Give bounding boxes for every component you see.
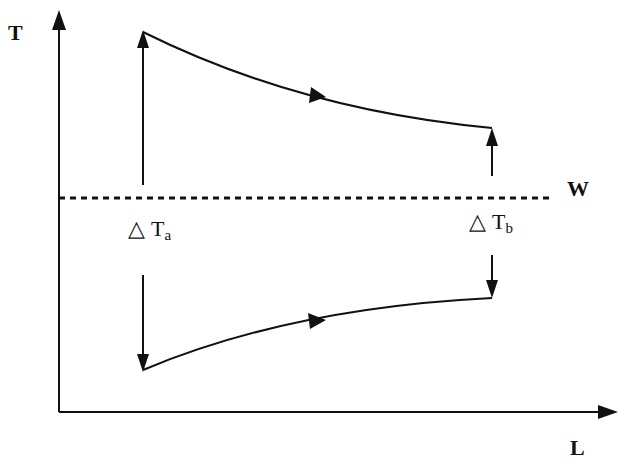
hot-flow-arrow-icon [309,87,326,103]
cold-fluid-curve [143,298,492,370]
x-axis-label: L [570,435,585,460]
y-axis-arrow-icon [52,10,66,30]
x-axis [59,405,618,419]
up-arrow-icon [137,30,149,48]
delta-ta-label: △Ta [128,216,171,243]
y-axis-label: T [8,20,23,45]
cold-flow-arrow-icon [308,313,326,329]
down-arrow-icon [486,280,498,298]
up-arrow-icon [486,128,498,146]
temperature-diagram: T L W △Ta △Tb [0,0,627,465]
delta-tb-label: △Tb [469,209,513,236]
hot-fluid-curve [143,32,492,128]
wall-label: W [567,176,589,201]
x-axis-arrow-icon [598,405,618,419]
delta-ta-indicator [137,30,149,372]
y-axis [52,10,66,412]
